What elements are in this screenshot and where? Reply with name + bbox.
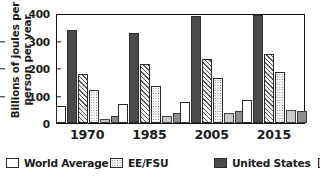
energy-use-bar-chart: Billions of joules per person per year 0… bbox=[0, 0, 320, 194]
legend-swatch-icon bbox=[214, 158, 227, 168]
y-tick-mark bbox=[56, 68, 61, 69]
legend-label: EE/FSU bbox=[128, 157, 168, 169]
legend-swatch-icon bbox=[6, 158, 19, 168]
bar-world-average-1985 bbox=[118, 104, 128, 123]
bar-united-states-1985 bbox=[129, 33, 139, 123]
bar-world-average-2015 bbox=[242, 100, 252, 123]
y-tick-label: 200 bbox=[28, 63, 56, 75]
legend-label: World Average bbox=[24, 157, 109, 169]
legend-item-world-average: World Average bbox=[6, 157, 110, 169]
bar-developing-asia-1985 bbox=[162, 116, 172, 123]
bar-developing-asia-1970 bbox=[100, 119, 110, 123]
bar-ee-fsu-2015 bbox=[275, 72, 285, 123]
bar-industrialized-2005 bbox=[202, 59, 212, 123]
y-tick-label: 100 bbox=[28, 91, 56, 103]
bar-united-states-1970 bbox=[67, 30, 77, 124]
y-tick-label: 0 bbox=[43, 118, 56, 130]
bar-world-average-1970 bbox=[56, 106, 66, 123]
bar-developing-asia-2005 bbox=[224, 113, 234, 123]
y-tick-mark bbox=[0, 96, 5, 97]
legend-item-united-states: United States bbox=[214, 157, 318, 169]
bar-cluster-2015 bbox=[242, 15, 307, 123]
bar-ee-fsu-1970 bbox=[89, 90, 99, 123]
y-tick-label: 400 bbox=[28, 8, 56, 20]
bar-ee-fsu-1985 bbox=[151, 86, 161, 123]
x-tick-label-1970: 1970 bbox=[70, 127, 104, 142]
bar-other-developing-2015 bbox=[297, 111, 307, 123]
bar-united-states-2015 bbox=[253, 15, 263, 123]
bar-cluster-1970 bbox=[56, 15, 121, 123]
x-tick-label-2015: 2015 bbox=[257, 127, 291, 142]
y-tick-mark bbox=[56, 96, 61, 97]
plot-inner bbox=[57, 15, 304, 123]
x-tick-label-2005: 2005 bbox=[194, 127, 228, 142]
legend-label: United States bbox=[232, 157, 310, 169]
bar-united-states-2005 bbox=[191, 16, 201, 123]
bar-industrialized-2015 bbox=[264, 54, 274, 123]
y-tick-label: 300 bbox=[28, 36, 56, 48]
bar-world-average-2005 bbox=[180, 102, 190, 123]
y-tick-mark bbox=[0, 41, 5, 42]
plot-area bbox=[56, 14, 305, 124]
bar-cluster-2005 bbox=[180, 15, 245, 123]
legend-swatch-icon bbox=[110, 158, 123, 168]
bar-industrialized-1985 bbox=[140, 64, 150, 123]
bar-developing-asia-2015 bbox=[286, 110, 296, 123]
x-tick-label-1985: 1985 bbox=[132, 127, 166, 142]
bar-ee-fsu-2005 bbox=[213, 78, 223, 123]
bar-industrialized-1970 bbox=[78, 74, 88, 124]
legend-item-ee-fsu: EE/FSU bbox=[110, 157, 214, 169]
bar-cluster-1985 bbox=[118, 15, 183, 123]
y-tick-mark bbox=[0, 68, 5, 69]
chart-legend: World AverageEE/FSUUnited StatesDevelopi… bbox=[6, 154, 318, 172]
y-tick-mark bbox=[56, 41, 61, 42]
